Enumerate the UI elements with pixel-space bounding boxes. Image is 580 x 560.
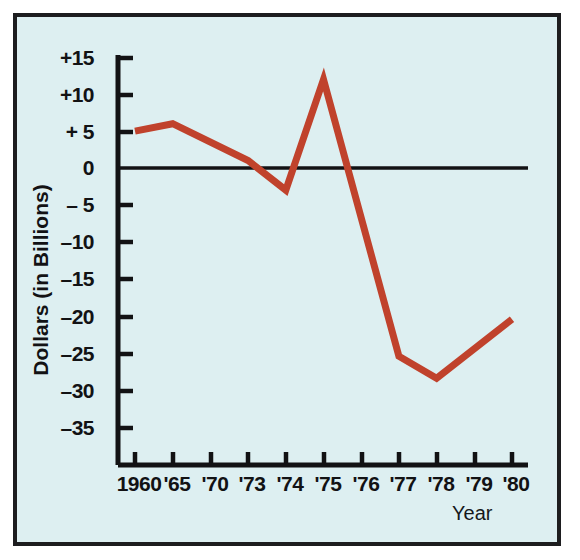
x-tick-label: '76	[353, 472, 380, 496]
x-tick-label: '79	[466, 472, 493, 496]
chart-figure: +15 +10 + 5 0 – 5 –10 –15 –20 –25 –30 –3…	[0, 0, 580, 560]
x-tick-label: 1960	[117, 472, 162, 496]
x-tick-label: '74	[277, 472, 304, 496]
x-tick-label: '75	[315, 472, 342, 496]
x-tick-label: '65	[164, 472, 191, 496]
chart-axes	[118, 55, 528, 465]
y-tick-label: + 5	[30, 120, 94, 144]
x-tick-label: '80	[503, 472, 530, 496]
y-tick-label: –35	[30, 416, 94, 440]
x-tick-label: '73	[239, 472, 266, 496]
x-tick-label: '70	[202, 472, 229, 496]
y-tick-label: +15	[30, 46, 94, 70]
y-tick-label: +10	[30, 83, 94, 107]
x-tick-label: '77	[390, 472, 417, 496]
x-axis-title: Year	[452, 502, 492, 525]
x-tick-label: '78	[428, 472, 455, 496]
data-series-line	[135, 79, 512, 378]
y-axis-title: Dollars (in Billions)	[29, 165, 53, 395]
